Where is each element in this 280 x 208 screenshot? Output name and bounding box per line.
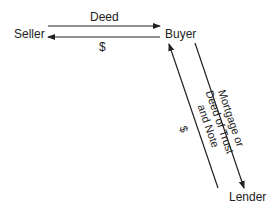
lender-node: Lender — [229, 191, 266, 203]
deed-label: Deed — [90, 11, 119, 23]
seller-node: Seller — [14, 28, 45, 40]
buyer-node: Buyer — [165, 28, 196, 40]
payment-to-seller-label: $ — [99, 41, 106, 53]
